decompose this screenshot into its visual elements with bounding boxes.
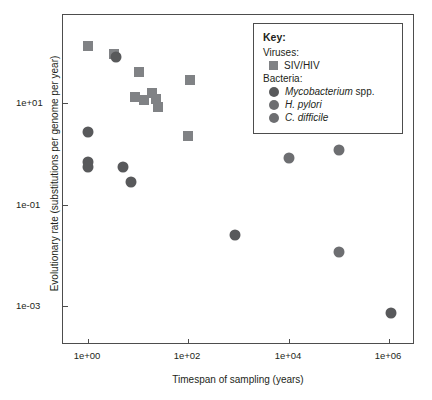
legend-entry-mycobacterium: Mycobacterium spp. — [269, 86, 394, 97]
legend-entry-label: Mycobacterium spp. — [285, 86, 375, 97]
x-tick — [289, 339, 290, 344]
data-point-mycobacterium — [230, 230, 241, 241]
y-tick-label: 1e+01 — [16, 97, 43, 108]
x-axis-title: Timespan of sampling (years) — [62, 374, 414, 385]
legend-entry-c-difficile: C. difficile — [269, 112, 394, 123]
square-marker-icon — [269, 61, 278, 70]
legend-group-bacteria: Bacteria: — [263, 73, 394, 84]
data-point-sivhiv — [183, 131, 193, 141]
legend-title: Key: — [263, 31, 394, 43]
legend-entry-label: C. difficile — [285, 112, 328, 123]
data-point-sivhiv — [134, 67, 144, 77]
y-tick — [63, 306, 68, 307]
plot-area: Key: Viruses: SIV/HIV Bacteria: Mycobact… — [62, 14, 414, 344]
legend: Key: Viruses: SIV/HIV Bacteria: Mycobact… — [253, 23, 403, 134]
data-point-sivhiv — [185, 75, 195, 85]
legend-entry-sivhiv: SIV/HIV — [269, 60, 394, 71]
x-tick — [389, 339, 390, 344]
x-tick-label: 1e+04 — [275, 350, 302, 361]
legend-entry-label: SIV/HIV — [284, 60, 320, 71]
data-point-sivhiv — [153, 102, 163, 112]
data-point-mycobacterium — [118, 162, 129, 173]
data-point-mycobacterium — [386, 308, 397, 319]
legend-entry-label: H. pylori — [285, 99, 322, 110]
y-tick-label: 1e-03 — [16, 300, 40, 311]
x-tick — [188, 339, 189, 344]
x-tick-label: 1e+06 — [375, 350, 402, 361]
data-point-mycobacterium — [111, 52, 122, 63]
data-point-c-difficile — [334, 145, 345, 156]
data-point-mycobacterium — [83, 162, 94, 173]
x-tick-label: 1e+02 — [174, 350, 201, 361]
legend-entry-suffix: spp. — [353, 86, 375, 97]
data-point-c-difficile — [334, 247, 345, 258]
legend-group-viruses: Viruses: — [263, 47, 394, 58]
data-point-mycobacterium — [126, 177, 137, 188]
circle-marker-icon — [269, 87, 279, 97]
data-point-mycobacterium — [83, 127, 94, 138]
data-point-sivhiv — [83, 41, 93, 51]
data-point-h-pylori — [284, 153, 295, 164]
legend-entry-genus: Mycobacterium — [285, 86, 353, 97]
y-tick-label: 1e-01 — [16, 199, 40, 210]
y-tick — [63, 103, 68, 104]
legend-entry-h-pylori: H. pylori — [269, 99, 394, 110]
y-axis-title: Evolutionary rate (substitutions per gen… — [49, 24, 60, 324]
y-tick — [63, 205, 68, 206]
x-tick-label: 1e+00 — [74, 350, 101, 361]
circle-marker-icon — [269, 113, 279, 123]
circle-marker-icon — [269, 100, 279, 110]
x-tick — [88, 339, 89, 344]
scatter-chart: Key: Viruses: SIV/HIV Bacteria: Mycobact… — [0, 0, 432, 400]
